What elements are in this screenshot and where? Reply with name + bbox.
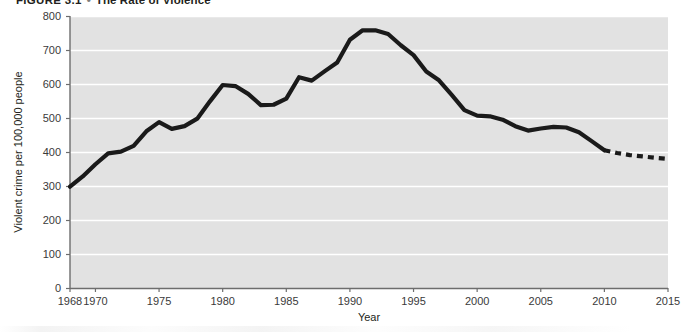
- figure-container: FIGURE 3.1•The Rate of Violence 01002003…: [0, 0, 686, 332]
- y-tick-label-800: 800: [43, 10, 61, 22]
- y-tick-label-600: 600: [43, 78, 61, 90]
- x-tick-label-1990: 1990: [338, 295, 362, 307]
- x-tick-label-2000: 2000: [465, 295, 489, 307]
- x-tick-label-1985: 1985: [274, 295, 298, 307]
- y-tick-label-100: 100: [43, 248, 61, 260]
- x-axis-title: Year: [358, 311, 381, 323]
- x-tick-label-2015: 2015: [656, 295, 680, 307]
- y-axis-title: Violent crime per 100,000 people: [12, 71, 24, 232]
- x-tick-label-1980: 1980: [210, 295, 234, 307]
- line-chart: 0100200300400500600700800 19681970197519…: [0, 0, 686, 332]
- y-axis-title-group: Violent crime per 100,000 people: [12, 71, 24, 232]
- x-tick-label-1970: 1970: [83, 295, 107, 307]
- y-tick-label-500: 500: [43, 112, 61, 124]
- y-tick-label-700: 700: [43, 44, 61, 56]
- x-axis-tick-labels: 1968197019751980198519901995200020052010…: [58, 295, 680, 307]
- page-edge-artifact: [0, 326, 686, 332]
- x-tick-label-2010: 2010: [592, 295, 616, 307]
- x-axis-title-group: Year: [358, 311, 381, 323]
- x-tick-label-1995: 1995: [401, 295, 425, 307]
- y-tick-label-400: 400: [43, 146, 61, 158]
- y-tick-label-200: 200: [43, 214, 61, 226]
- y-tick-label-300: 300: [43, 180, 61, 192]
- x-tick-label-1968: 1968: [58, 295, 82, 307]
- y-tick-label-0: 0: [55, 282, 61, 294]
- y-axis-tick-labels: 0100200300400500600700800: [43, 10, 61, 294]
- x-tick-label-1975: 1975: [147, 295, 171, 307]
- x-tick-label-2005: 2005: [529, 295, 553, 307]
